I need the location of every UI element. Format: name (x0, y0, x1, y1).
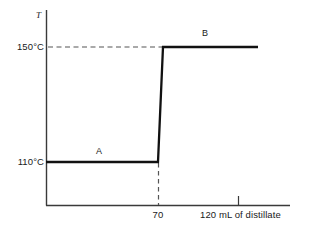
curve-annotation-b: B (202, 29, 208, 38)
distillation-chart: T 150°C 110°C A B 70 120 mL of distillat… (0, 0, 321, 231)
plot-canvas (0, 0, 321, 231)
y-axis-tick-label-110: 110°C (0, 157, 44, 167)
x-axis-caption: 120 mL of distillate (200, 210, 281, 220)
distillation-curve (46, 47, 258, 162)
curve-annotation-a: A (96, 147, 102, 156)
x-axis-tick-label-70: 70 (148, 210, 168, 220)
y-axis-tick-label-150: 150°C (0, 42, 44, 52)
y-axis-title: T (36, 11, 41, 20)
